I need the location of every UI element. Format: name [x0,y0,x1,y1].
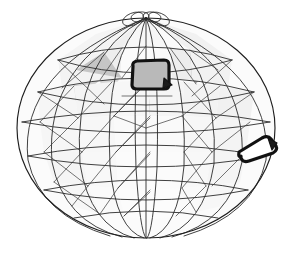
mesh-face [212,118,250,152]
mesh-face [82,152,118,188]
mesh-face [150,152,184,190]
mesh-face [150,116,184,152]
wireframe-sphere-figure [0,0,292,259]
figure-root [0,0,292,259]
